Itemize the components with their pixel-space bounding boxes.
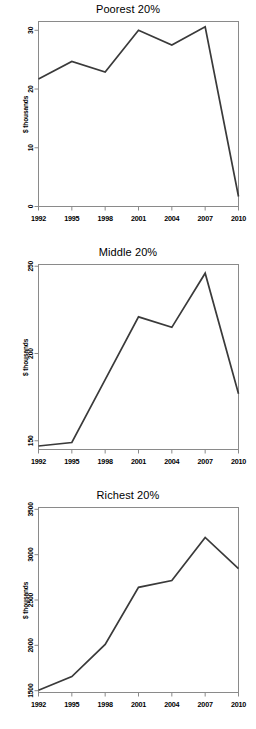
y-tick-label: 0 <box>27 204 34 208</box>
y-tick-label: 2000 <box>27 638 34 653</box>
figure-root: Poorest 20% $ thousands 0102030199219951… <box>0 0 256 729</box>
y-tick-label: 10 <box>27 144 34 152</box>
chart-plot-richest: 1500200025003000350019921995199820012004… <box>0 486 256 729</box>
x-tick-label: 1998 <box>98 457 113 466</box>
y-tick-label: 2500 <box>27 592 34 607</box>
y-tick-label: 150 <box>27 435 34 446</box>
chart-plot-poorest: 01020301992199519982001200420072010 <box>0 0 256 243</box>
chart-panel-richest: Richest 20% $ thousands 1500200025003000… <box>0 486 256 729</box>
x-tick-label: 2007 <box>198 700 213 709</box>
data-series-line <box>39 537 239 690</box>
x-tick-label: 1992 <box>31 457 46 466</box>
x-tick-label: 2010 <box>231 214 246 223</box>
x-tick-label: 1992 <box>31 700 46 709</box>
x-tick-label: 2001 <box>131 214 146 223</box>
y-tick-label: 3000 <box>27 547 34 562</box>
y-tick-label: 20 <box>27 85 34 93</box>
chart-panel-poorest: Poorest 20% $ thousands 0102030199219951… <box>0 0 256 243</box>
plot-frame <box>39 22 239 207</box>
x-tick-label: 1998 <box>98 214 113 223</box>
y-tick-label: 200 <box>27 348 34 359</box>
y-tick-label: 1500 <box>27 683 34 698</box>
x-tick-label: 2004 <box>164 700 179 709</box>
y-tick-label: 250 <box>27 260 34 271</box>
x-tick-label: 1992 <box>31 214 46 223</box>
plot-frame <box>39 265 239 450</box>
chart-plot-middle: 1502002501992199519982001200420072010 <box>0 243 256 486</box>
x-tick-label: 2007 <box>198 457 213 466</box>
x-tick-label: 1998 <box>98 700 113 709</box>
x-tick-label: 2001 <box>131 457 146 466</box>
plot-frame <box>39 508 239 693</box>
data-series-line <box>39 273 239 446</box>
x-tick-label: 2001 <box>131 700 146 709</box>
x-tick-label: 1995 <box>64 700 79 709</box>
x-tick-label: 1995 <box>64 214 79 223</box>
chart-panel-middle: Middle 20% $ thousands 15020025019921995… <box>0 243 256 486</box>
x-tick-label: 1995 <box>64 457 79 466</box>
x-tick-label: 2004 <box>164 457 179 466</box>
y-tick-label: 3500 <box>27 502 34 517</box>
x-tick-label: 2010 <box>231 700 246 709</box>
data-series-line <box>39 27 239 197</box>
x-tick-label: 2004 <box>164 214 179 223</box>
x-tick-label: 2007 <box>198 214 213 223</box>
x-tick-label: 2010 <box>231 457 246 466</box>
y-tick-label: 30 <box>27 26 34 34</box>
